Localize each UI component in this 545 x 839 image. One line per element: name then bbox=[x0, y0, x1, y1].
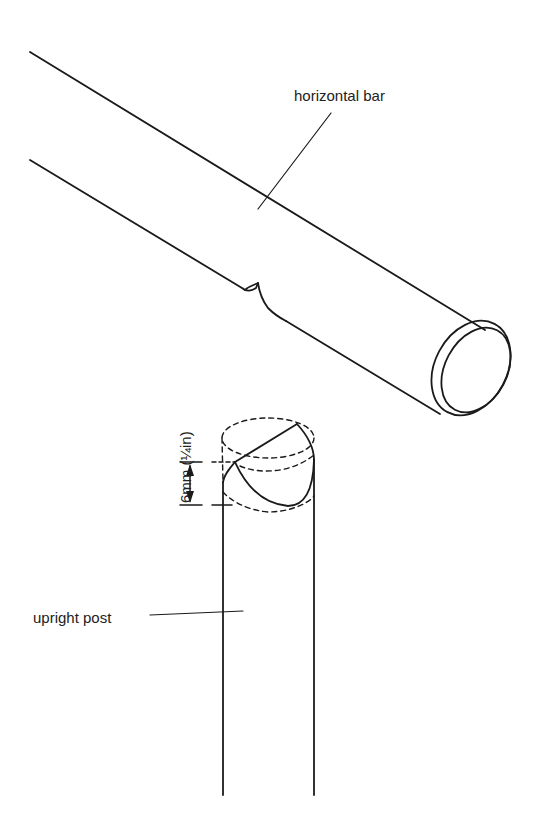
post-cut-curve bbox=[235, 460, 314, 506]
bar-top-edge bbox=[30, 52, 485, 330]
post-cut-right bbox=[297, 424, 314, 460]
upright-post-leader bbox=[150, 611, 243, 615]
horizontal-bar-label: horizontal bar bbox=[294, 88, 385, 103]
post-cut-top bbox=[235, 424, 297, 462]
ghost-left-edge bbox=[222, 438, 223, 482]
bar-notch bbox=[246, 283, 286, 321]
dimension-label: 6mm (¼in) bbox=[178, 431, 193, 503]
diagram-canvas bbox=[0, 0, 545, 839]
post-shoulder bbox=[223, 462, 235, 482]
ghost-ellipse-top bbox=[222, 418, 314, 458]
horizontal-bar bbox=[30, 52, 526, 429]
horizontal-bar-leader bbox=[258, 113, 331, 209]
bar-bottom-edge-right bbox=[286, 321, 440, 414]
upright-post bbox=[223, 424, 314, 795]
upright-post-label: upright post bbox=[33, 610, 111, 625]
bar-bottom-edge-left bbox=[30, 160, 258, 291]
